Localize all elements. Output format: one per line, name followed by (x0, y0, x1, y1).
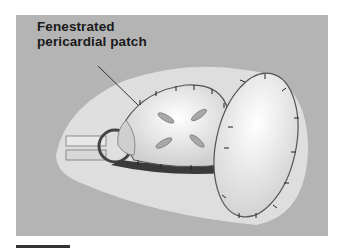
label-line-1: Fenestrated (37, 19, 147, 34)
figure-label: Fenestrated pericardial patch (37, 19, 147, 49)
label-line-2: pericardial patch (37, 34, 147, 49)
